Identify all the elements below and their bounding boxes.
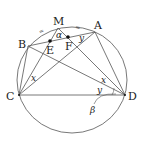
segment-BD xyxy=(28,46,125,95)
point-D xyxy=(124,94,126,96)
label-E: E xyxy=(46,44,54,57)
arc-mark-BM: = xyxy=(37,26,45,34)
angle-alpha: α xyxy=(56,30,62,40)
label-B: B xyxy=(18,38,26,51)
angle-x-at-D: x xyxy=(101,75,106,85)
geometry-diagram: = = M A B C D E F α y x x y β xyxy=(0,0,144,145)
label-M: M xyxy=(53,15,64,28)
label-C: C xyxy=(6,90,14,103)
arc-mark-MA: = xyxy=(75,23,81,31)
angle-y-at-D: y xyxy=(96,85,103,95)
angle-y-at-A: y xyxy=(78,33,85,43)
label-D: D xyxy=(128,90,137,103)
label-A: A xyxy=(93,19,103,32)
angle-x-at-C: x xyxy=(31,73,36,83)
point-C xyxy=(18,94,20,96)
angle-beta: β xyxy=(89,105,95,115)
point-E xyxy=(48,39,52,43)
beta-leader xyxy=(94,94,116,104)
label-F: F xyxy=(65,40,73,53)
point-F xyxy=(66,35,70,39)
